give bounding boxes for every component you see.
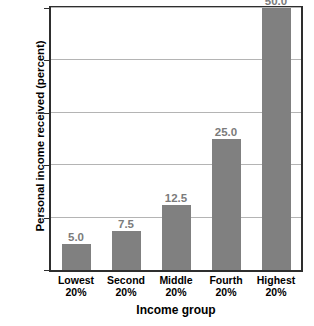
bar[interactable]	[162, 205, 191, 271]
bar-value-label: 7.5	[100, 218, 152, 230]
bar-value-label: 12.5	[150, 192, 202, 204]
y-tick-mark	[44, 165, 49, 166]
bars-layer: 5.07.512.525.050.0	[51, 8, 301, 270]
y-axis-title: Personal income received (percent)	[34, 6, 46, 266]
x-tick-label-line: Highest	[245, 275, 307, 287]
bar-chart: Personal income received (percent) 5.07.…	[0, 0, 314, 326]
y-tick-mark	[44, 218, 49, 219]
bar-value-label: 25.0	[200, 126, 252, 138]
bar[interactable]	[62, 244, 91, 270]
plot-area: 5.07.512.525.050.0	[49, 6, 303, 272]
x-tick-label: Highest20%	[245, 275, 307, 298]
y-tick-mark	[44, 113, 49, 114]
bar[interactable]	[212, 139, 241, 270]
y-tick-mark	[44, 270, 49, 271]
bar[interactable]	[262, 8, 291, 270]
y-tick-mark	[44, 8, 49, 9]
x-axis-title: Income group	[49, 303, 303, 317]
bar-value-label: 5.0	[50, 231, 102, 243]
y-tick-mark	[44, 60, 49, 61]
bar-value-label: 50.0	[250, 0, 302, 7]
x-tick-label-line: 20%	[245, 287, 307, 299]
bar[interactable]	[112, 231, 141, 270]
